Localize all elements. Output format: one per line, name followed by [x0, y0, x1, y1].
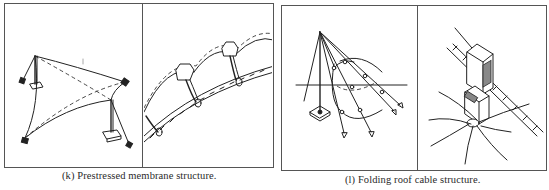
figure-k-divider [142, 4, 143, 167]
figure-l-divider [417, 6, 418, 170]
cable-clamp-detail-illustration [144, 4, 272, 166]
figure-l-caption: (l) Folding roof cable structure. [345, 174, 480, 185]
figure-k-panel-membrane [5, 4, 142, 167]
figure-l-panel-clamp-detail [419, 6, 545, 170]
figure-l-frame [281, 5, 547, 171]
figure-k-caption: (k) Prestressed membrane structure. [62, 170, 217, 181]
folding-roof-illustration [282, 6, 417, 169]
figure-k-frame [4, 3, 274, 168]
figure-k-panel-cable-detail [144, 4, 272, 167]
figure-l-panel-folding-roof [282, 6, 417, 170]
cable-clamp-fitting-illustration [419, 6, 545, 169]
membrane-structure-illustration [5, 4, 142, 166]
